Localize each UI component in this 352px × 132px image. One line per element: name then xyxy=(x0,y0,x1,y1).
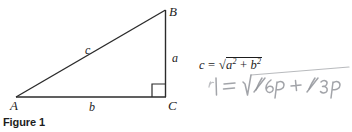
formula-exp-b: 2 xyxy=(257,57,261,66)
side-label-b: b xyxy=(89,101,95,113)
hw-letter-r xyxy=(209,82,214,87)
vertex-label-b: B xyxy=(169,5,177,18)
hw-digit-three xyxy=(321,81,328,93)
hw-digit-six xyxy=(266,80,273,93)
figure-caption: Figure 1 xyxy=(3,116,45,128)
hw-equals-sign xyxy=(224,83,236,89)
side-label-c: c xyxy=(85,44,90,56)
vertex-label-a: A xyxy=(10,99,18,112)
figure-page: A B C a b c c = √a2 + b2 Figure 1 xyxy=(0,0,352,132)
hw-letter-p-first xyxy=(275,82,284,98)
formula-exp-a: 2 xyxy=(232,57,236,66)
hw-fraction-slash-first xyxy=(254,78,265,92)
side-label-a: a xyxy=(172,52,178,64)
hw-fraction-slash-second xyxy=(307,78,318,92)
formula-lhs: c xyxy=(199,58,205,72)
hw-plus-sign xyxy=(291,81,301,91)
triangle-side-c-line xyxy=(16,10,166,97)
vertex-label-c: C xyxy=(168,99,177,112)
right-angle-marker xyxy=(152,84,165,97)
hw-letter-p-second xyxy=(331,82,340,98)
hw-vertical-bar xyxy=(216,78,217,95)
handwritten-annotation xyxy=(206,70,352,112)
hw-radical-sign xyxy=(243,75,251,95)
